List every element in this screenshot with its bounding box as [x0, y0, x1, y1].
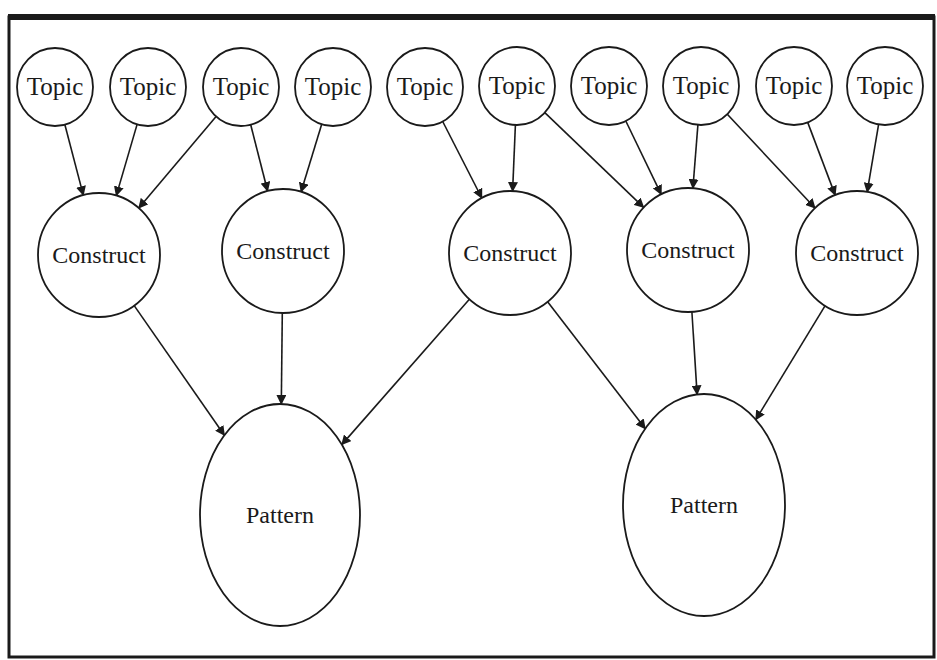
topic-label: Topic — [581, 72, 638, 99]
pattern-node-1: Pattern — [623, 394, 785, 616]
topic-node-9: Topic — [847, 47, 923, 125]
topic-label: Topic — [27, 73, 84, 100]
topic-construct-pattern-diagram: TopicTopicTopicTopicTopicTopicTopicTopic… — [0, 0, 937, 660]
topic-node-8: Topic — [756, 47, 832, 125]
topic-label: Topic — [857, 72, 914, 99]
edge-t7-to-c4-arrow — [727, 114, 815, 208]
topic-node-6: Topic — [571, 47, 647, 125]
edge-c2-to-p1-arrow — [548, 302, 646, 429]
construct-label: Construct — [641, 237, 735, 263]
topic-node-2: Topic — [203, 48, 279, 126]
pattern-node-0: Pattern — [200, 404, 360, 626]
topic-label: Topic — [305, 73, 362, 100]
topic-label: Topic — [213, 73, 270, 100]
topic-node-0: Topic — [17, 48, 93, 126]
construct-node-1: Construct — [222, 189, 344, 313]
edge-c1-to-p0-arrow — [281, 313, 282, 404]
edge-t2-to-c1-arrow — [251, 125, 268, 191]
edge-c2-to-p0-arrow — [342, 299, 470, 444]
construct-node-4: Construct — [796, 191, 918, 315]
construct-label: Construct — [810, 240, 904, 266]
construct-label: Construct — [463, 240, 557, 266]
edge-t3-to-c1-arrow — [301, 124, 322, 192]
edge-t6-to-c3-arrow — [626, 121, 661, 194]
edge-c4-to-p1-arrow — [756, 306, 825, 420]
nodes-layer: TopicTopicTopicTopicTopicTopicTopicTopic… — [17, 47, 923, 626]
edge-c3-to-p1-arrow — [692, 312, 697, 395]
edge-t2-to-c0-arrow — [139, 117, 216, 209]
pattern-label: Pattern — [246, 502, 314, 528]
topic-label: Topic — [397, 73, 454, 100]
edge-t4-to-c2-arrow — [443, 122, 482, 199]
edge-t0-to-c0-arrow — [65, 125, 83, 195]
edge-t8-to-c4-arrow — [808, 122, 836, 195]
construct-node-2: Construct — [449, 191, 571, 315]
topic-node-5: Topic — [479, 47, 555, 125]
topic-node-7: Topic — [663, 47, 739, 125]
topic-label: Topic — [673, 72, 730, 99]
edge-t9-to-c4-arrow — [867, 124, 878, 191]
edge-t5-to-c2-arrow — [513, 125, 516, 191]
construct-label: Construct — [52, 242, 146, 268]
diagram-canvas: TopicTopicTopicTopicTopicTopicTopicTopic… — [0, 0, 937, 660]
topic-label: Topic — [766, 72, 823, 99]
topic-node-3: Topic — [295, 48, 371, 126]
topic-node-4: Topic — [387, 48, 463, 126]
edge-t7-to-c3-arrow — [693, 125, 698, 188]
topic-label: Topic — [489, 72, 546, 99]
topic-node-1: Topic — [110, 48, 186, 126]
edge-c0-to-p0-arrow — [134, 306, 224, 436]
pattern-label: Pattern — [670, 492, 738, 518]
construct-node-0: Construct — [38, 193, 160, 317]
construct-label: Construct — [236, 238, 330, 264]
edge-t1-to-c0-arrow — [116, 124, 137, 195]
topic-label: Topic — [120, 73, 177, 100]
construct-node-3: Construct — [627, 188, 749, 312]
